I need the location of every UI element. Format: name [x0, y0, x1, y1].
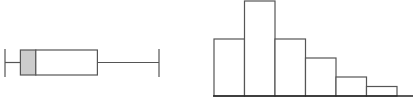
chart-canvas [0, 0, 419, 104]
histogram-bar [367, 87, 398, 97]
histogram-bar [275, 39, 306, 96]
histogram-bar [214, 39, 245, 96]
histogram-bar [245, 1, 276, 96]
box-plot [5, 49, 159, 77]
histogram [213, 1, 413, 96]
box-lower-segment [20, 50, 35, 75]
histogram-bar [306, 58, 337, 96]
histogram-bar [336, 77, 367, 96]
box-upper-segment [36, 50, 98, 75]
